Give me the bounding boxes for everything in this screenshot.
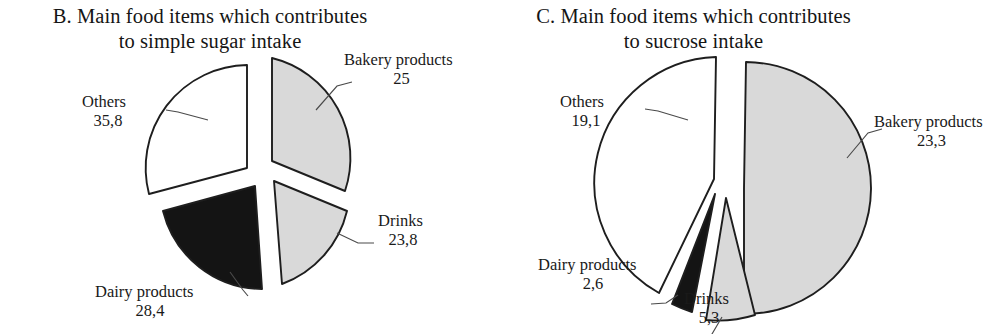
chart-panel-c: C. Main food items which contributes to … <box>490 0 981 334</box>
leader-line-drinks <box>337 233 374 243</box>
chart-panel-b: B. Main food items which contributes to … <box>0 0 490 334</box>
callout-value: 2,6 <box>538 274 648 293</box>
callout-label: Dairy products <box>538 255 648 274</box>
callout-label: Bakery products <box>344 50 459 69</box>
callout-label: Drinks <box>378 211 428 230</box>
callout-label: Others <box>560 92 612 111</box>
callout-value: 25 <box>344 69 459 88</box>
callout-bakery-products-c: Bakery products 23,3 <box>874 112 987 150</box>
callout-label: Dairy products <box>95 282 205 301</box>
callout-dairy-products-c: Dairy products 2,6 <box>538 255 648 293</box>
callout-drinks-b: Drinks 23,8 <box>378 211 428 249</box>
pie-slice-bakery-products[interactable] <box>272 58 350 191</box>
callout-value: 19,1 <box>560 111 612 130</box>
callout-label: Drinks <box>684 289 734 308</box>
callout-drinks-c: Drinks 5,3 <box>684 289 734 327</box>
callout-dairy-products-b: Dairy products 28,4 <box>95 282 205 320</box>
pie-slice-others[interactable] <box>146 65 247 194</box>
pie-slice-bakery-products[interactable] <box>744 62 871 314</box>
callout-bakery-products-b: Bakery products 25 <box>344 50 459 88</box>
callout-value: 35,8 <box>82 111 134 130</box>
callout-label: Bakery products <box>874 112 987 131</box>
callout-label: Others <box>82 92 134 111</box>
callout-others-c: Others 19,1 <box>560 92 612 130</box>
callout-value: 28,4 <box>95 301 205 320</box>
pie-slice-drinks[interactable] <box>274 181 347 284</box>
callout-value: 23,3 <box>874 131 987 150</box>
callout-value: 5,3 <box>684 308 734 327</box>
pie-slice-dairy-products[interactable] <box>163 186 262 289</box>
callout-others-b: Others 35,8 <box>82 92 134 130</box>
callout-value: 23,8 <box>378 230 428 249</box>
